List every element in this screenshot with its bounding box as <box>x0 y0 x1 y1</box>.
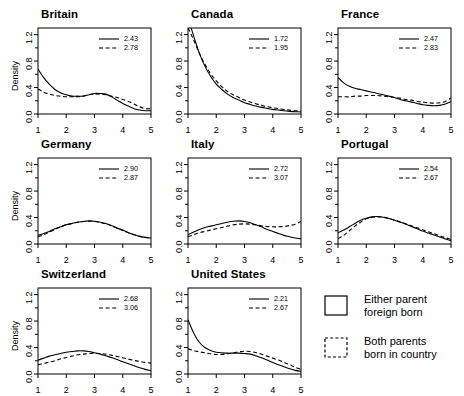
legend-value-dashed: 2.87 <box>124 173 138 182</box>
key-label-both-parents: Both parentsborn in country <box>364 335 437 361</box>
density-curve-solid <box>38 221 151 238</box>
panel-canada: Canada0.00.40.81.2123451.721.95 <box>150 0 300 130</box>
legend-value-dashed: 3.06 <box>124 303 138 312</box>
legend-value-solid: 2.47 <box>424 34 438 43</box>
panel-plot-area <box>0 260 150 390</box>
figure-key: Either parentforeign bornBoth parentsbor… <box>300 260 464 396</box>
legend-value-dashed: 2.83 <box>424 43 438 52</box>
legend-value-solid: 1.72 <box>274 34 288 43</box>
panel-plot-area <box>150 130 300 260</box>
panel-plot-area <box>150 0 300 130</box>
key-label-both-parents-line2: born in country <box>364 348 437 361</box>
key-label-either-parent-line1: Either parent <box>364 293 427 306</box>
panel-plot-area <box>0 130 150 260</box>
legend-value-solid: 2.68 <box>124 294 138 303</box>
legend-value-solid: 2.90 <box>124 164 138 173</box>
legend-value-solid: 2.54 <box>424 164 438 173</box>
panel-portugal: Portugal0.00.40.81.2123452.542.67 <box>300 130 450 260</box>
legend-value-solid: 2.21 <box>274 294 288 303</box>
panel-united-states: United States0.00.40.81.2123452.212.67 <box>150 260 300 390</box>
density-curve-solid <box>188 221 301 239</box>
density-curve-solid <box>338 78 451 106</box>
density-curve-dashed <box>338 95 451 103</box>
legend-value-dashed: 2.78 <box>124 43 138 52</box>
key-label-both-parents-line1: Both parents <box>364 335 437 348</box>
panel-plot-area <box>150 260 300 390</box>
key-label-either-parent-line2: foreign born <box>364 306 427 319</box>
density-curve-dashed <box>38 221 151 238</box>
density-curve-solid <box>188 320 301 372</box>
panel-plot-area <box>0 0 150 130</box>
panel-britain: BritainDensity0.00.40.81.2123452.432.78 <box>0 0 150 130</box>
panel-plot-area <box>300 130 450 260</box>
legend-value-dashed: 1.95 <box>274 43 288 52</box>
density-plot-figure: BritainDensity0.00.40.81.2123452.432.78C… <box>0 0 464 396</box>
legend-value-dashed: 2.67 <box>424 173 438 182</box>
panel-italy: Italy0.00.40.81.2123452.723.07 <box>150 130 300 260</box>
legend-value-solid: 2.43 <box>124 34 138 43</box>
legend-value-solid: 2.72 <box>274 164 288 173</box>
panel-plot-area <box>300 0 450 130</box>
density-curve-solid <box>338 217 451 241</box>
panel-germany: GermanyDensity0.00.40.81.2123452.902.87 <box>0 130 150 260</box>
legend-value-dashed: 2.67 <box>274 303 288 312</box>
density-curve-solid <box>38 351 151 371</box>
panel-switzerland: SwitzerlandDensity0.00.40.81.2123452.683… <box>0 260 150 390</box>
density-curve-dashed <box>38 89 151 109</box>
figure-key-swatches <box>300 260 464 396</box>
panel-france: France0.00.40.81.2123452.472.83 <box>300 0 450 130</box>
key-label-either-parent: Either parentforeign born <box>364 293 427 319</box>
legend-value-dashed: 3.07 <box>274 173 288 182</box>
key-swatch-solid-icon <box>325 296 347 315</box>
density-curve-dashed <box>188 222 301 237</box>
key-swatch-dashed-icon <box>325 338 347 357</box>
